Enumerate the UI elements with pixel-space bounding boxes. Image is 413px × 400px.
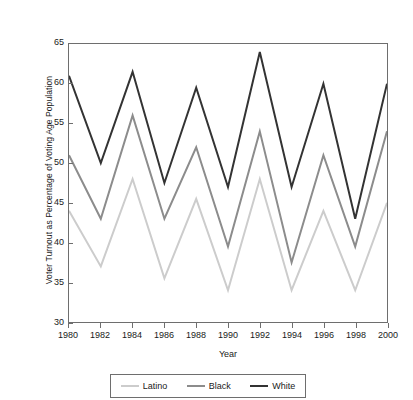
y-axis-tick-label: 35 (36, 278, 64, 287)
x-axis-tick-mark (324, 323, 325, 328)
y-axis-tick-label: 65 (36, 38, 64, 47)
legend-swatch-icon (250, 385, 268, 387)
y-axis-tick-mark (68, 203, 73, 204)
x-axis-tick-mark (164, 323, 165, 328)
legend-label: White (272, 381, 295, 391)
legend-label: Black (209, 381, 231, 391)
x-axis-title: Year (68, 349, 388, 359)
chart-figure: Voter Turnout as Percentage of Voting Ag… (0, 0, 413, 400)
chart-legend: LatinoBlackWhite (110, 374, 306, 398)
legend-swatch-icon (187, 385, 205, 387)
line-chart-svg (69, 44, 387, 322)
y-axis-tick-mark (68, 123, 73, 124)
x-axis-tick-mark (356, 323, 357, 328)
legend-swatch-icon (121, 385, 139, 387)
y-axis-tick-label: 60 (36, 78, 64, 87)
x-axis-tick-mark (132, 323, 133, 328)
y-axis-tick-label: 50 (36, 158, 64, 167)
x-axis-tick-mark (260, 323, 261, 328)
y-axis-tick-mark (68, 43, 73, 44)
x-axis-tick-mark (388, 323, 389, 328)
y-axis-tick-label: 55 (36, 118, 64, 127)
legend-entry-black[interactable]: Black (187, 381, 231, 391)
y-axis-tick-mark (68, 283, 73, 284)
y-axis-tick-label: 45 (36, 198, 64, 207)
y-axis-tick-mark (68, 243, 73, 244)
x-axis-tick-mark (100, 323, 101, 328)
legend-entry-white[interactable]: White (250, 381, 295, 391)
y-axis-tick-mark (68, 83, 73, 84)
legend-label: Latino (143, 381, 168, 391)
y-axis-tick-label: 30 (36, 318, 64, 327)
legend-entry-latino[interactable]: Latino (121, 381, 168, 391)
x-axis-tick-labels: 1980198219841986198819901992199419961998… (0, 331, 413, 345)
x-axis-tick-mark (196, 323, 197, 328)
x-axis-tick-mark (228, 323, 229, 328)
series-line-latino (69, 179, 387, 290)
x-axis-tick-mark (68, 323, 69, 328)
plot-area (68, 43, 388, 323)
x-axis-tick-label: 2000 (368, 331, 408, 340)
y-axis-tick-labels: 6560555045403530 (32, 43, 64, 323)
x-axis-tick-mark (292, 323, 293, 328)
y-axis-tick-label: 40 (36, 238, 64, 247)
series-line-white (69, 52, 387, 219)
y-axis-tick-mark (68, 163, 73, 164)
